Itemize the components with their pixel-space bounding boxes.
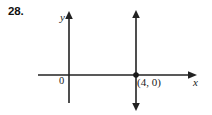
graph-line-bottom-arrowhead-icon (132, 103, 140, 111)
figure-container: 28. y x 0 (4, 0) (0, 0, 212, 115)
coordinate-graph (0, 0, 212, 115)
graph-line-top-arrowhead-icon (132, 10, 140, 18)
y-axis-label: y (60, 12, 65, 23)
y-axis-arrowhead-icon (65, 11, 73, 19)
point-coordinate-label: (4, 0) (137, 77, 161, 88)
origin-label: 0 (59, 76, 64, 87)
x-axis-label: x (193, 77, 198, 88)
